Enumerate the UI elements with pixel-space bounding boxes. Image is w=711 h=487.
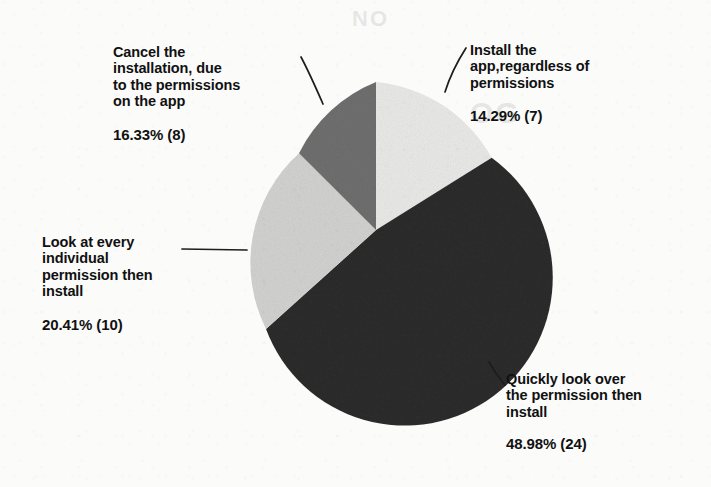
callout-cancel-value: 16.33% (8)	[113, 127, 295, 144]
callout-install-label: Install the app,regardless of permission…	[470, 42, 670, 91]
callout-cancel-label: Cancel the installation, due to the perm…	[113, 44, 295, 110]
callout-quickly-label: Quickly look over the permission then in…	[506, 371, 696, 420]
callout-quickly-look-over: Quickly look over the permission then in…	[506, 371, 696, 453]
callout-install-value: 14.29% (7)	[470, 108, 670, 125]
callout-look-value: 20.41% (10)	[42, 317, 210, 334]
callout-quickly-value: 48.98% (24)	[506, 436, 696, 453]
callout-cancel-the-installation: Cancel the installation, due to the perm…	[113, 44, 295, 143]
callout-look-at-every: Look at every individual permission then…	[42, 234, 210, 333]
callout-look-label: Look at every individual permission then…	[42, 234, 210, 300]
callout-install-the-app: Install the app,regardless of permission…	[470, 42, 670, 125]
leader-line-cancel	[301, 57, 323, 104]
pie-chart: Cancel the installation, due to the perm…	[0, 0, 711, 487]
leader-line-install	[445, 48, 466, 92]
pie-chart-page: NO OG	[0, 0, 711, 487]
